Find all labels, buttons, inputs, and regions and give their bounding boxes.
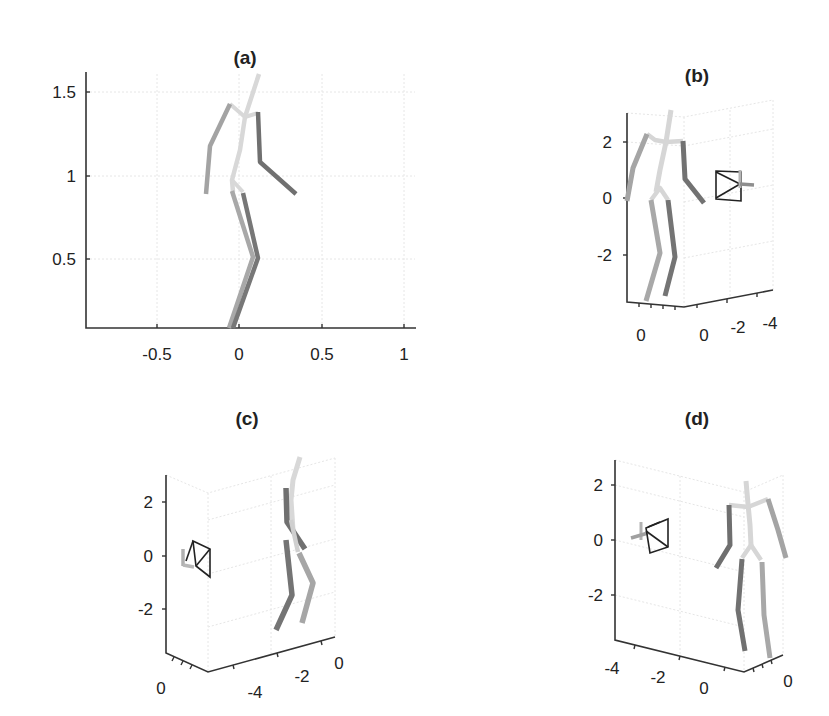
panel-c-camera-icon (183, 541, 210, 577)
panel-b-ztick-2: 2 (603, 133, 612, 152)
figure-canvas: (a) 1.5 1 0.5 -0.5 0 0.5 1 (0, 0, 829, 716)
panel-d-xtick-0: 0 (699, 679, 708, 698)
panel-d-ztick-0: 0 (594, 531, 603, 550)
panel-c-xtick-0: 0 (156, 679, 165, 698)
panel-b-ytick-neg4: -4 (762, 314, 777, 333)
panel-d-grid (615, 460, 783, 672)
panel-b-skeleton (627, 110, 704, 301)
panel-d-ztick-2: 2 (594, 476, 603, 495)
panel-b-camera-icon (716, 170, 754, 201)
panel-c-ztick-neg2: -2 (138, 600, 153, 619)
panel-a-ytick-0.5: 0.5 (52, 250, 76, 269)
panel-c-ztick-2: 2 (144, 493, 153, 512)
panel-c: (c) 2 0 -2 0 -4 -2 0 (138, 408, 344, 702)
panel-b-xtick-0: 0 (636, 326, 645, 345)
panel-a-grid (86, 74, 415, 328)
panel-c-ytick-0: 0 (334, 654, 343, 673)
panel-a-skeleton (206, 74, 296, 328)
panel-d-ytick-0: 0 (783, 672, 792, 691)
panel-c-title: (c) (235, 408, 258, 429)
panel-a-ytick-1: 1 (67, 167, 76, 186)
panel-c-ytick-neg4: -4 (247, 683, 262, 702)
panel-d-camera-icon (631, 519, 668, 553)
panel-d-xtick-neg2: -2 (650, 668, 665, 687)
panel-c-ztick-0: 0 (144, 547, 153, 566)
panel-d-axes (615, 460, 783, 672)
panel-a-xtick-0: 0 (234, 345, 243, 364)
panel-b-ytick-neg2: -2 (730, 318, 745, 337)
panel-a-xtick-1: 1 (399, 345, 408, 364)
panel-c-ticks (162, 502, 322, 669)
panel-b: (b) 2 0 -2 0 0 -2 -4 (597, 65, 778, 345)
panel-b-ticks (623, 142, 757, 310)
panel-d-xtick-neg4: -4 (604, 659, 619, 678)
panel-b-ztick-0: 0 (603, 189, 612, 208)
panel-b-axes (627, 113, 773, 307)
panel-a-xtick-0.5: 0.5 (310, 345, 334, 364)
panel-a-ytick-1.5: 1.5 (52, 83, 76, 102)
panel-a: (a) 1.5 1 0.5 -0.5 0 0.5 1 (52, 47, 416, 364)
panel-d-title: (d) (685, 408, 709, 429)
panel-b-title: (b) (685, 65, 709, 86)
panel-d: (d) 2 0 -2 -4 -2 0 0 (588, 408, 793, 698)
panel-d-skeleton (716, 481, 786, 658)
panel-c-ytick-neg2: -2 (294, 667, 309, 686)
panel-a-axes (86, 72, 416, 328)
panel-c-skeleton (276, 457, 313, 630)
panel-b-ytick-0: 0 (699, 326, 708, 345)
panel-b-grid (627, 100, 773, 307)
panel-a-title: (a) (233, 47, 256, 68)
panel-a-xtick-neg0.5: -0.5 (142, 345, 171, 364)
panel-d-ztick-neg2: -2 (588, 586, 603, 605)
panel-b-ztick-neg2: -2 (597, 246, 612, 265)
